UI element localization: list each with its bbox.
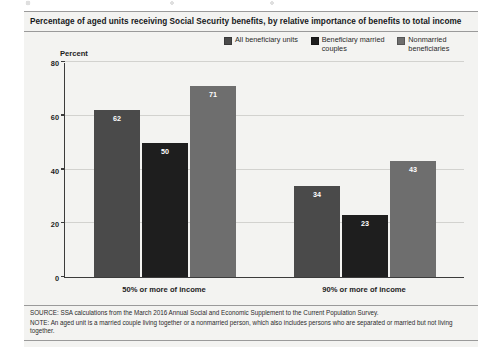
x-axis-group-label: 90% or more of income [322, 285, 406, 294]
legend-item-nonmarried-beneficiaries: Nonmarried beneficiaries [397, 36, 474, 53]
bar-value-label: 23 [342, 219, 388, 228]
y-tick-mark [61, 61, 65, 62]
x-axis-group-label: 50% or more of income [122, 285, 206, 294]
bar-value-label: 50 [142, 147, 188, 156]
plot-wrapper: 020406080 625071342343 50% or more of in… [42, 63, 470, 295]
gridline [65, 61, 464, 62]
general-note: NOTE: An aged unit is a married couple l… [30, 319, 472, 335]
bar: 34 [294, 186, 340, 277]
chart-notes: SOURCE: SSA calculations from the March … [24, 305, 478, 341]
legend-label: All beneficiary units [235, 36, 298, 45]
chart-title-bar: Percentage of aged units receiving Socia… [24, 11, 478, 32]
bar: 23 [342, 215, 388, 277]
legend-swatch-icon [397, 37, 405, 45]
legend-label: Nonmarried beneficiaries [408, 36, 474, 53]
bar-value-label: 43 [390, 165, 436, 174]
bar: 50 [142, 143, 188, 277]
chart-legend: All beneficiary units Beneficiary marrie… [224, 36, 474, 60]
y-tick-label: 60 [39, 112, 59, 121]
bar: 62 [94, 110, 140, 277]
legend-swatch-icon [311, 37, 319, 45]
legend-label: Beneficiary married couples [322, 36, 388, 53]
y-axis-title: Percent [60, 49, 88, 58]
bar: 43 [390, 161, 436, 277]
legend-item-beneficiary-married-couples: Beneficiary married couples [311, 36, 388, 53]
legend-swatch-icon [224, 37, 232, 45]
bars-layer: 625071342343 [65, 63, 464, 277]
source-note: SOURCE: SSA calculations from the March … [30, 309, 472, 317]
chart-figure: Percentage of aged units receiving Socia… [24, 11, 478, 347]
bar-value-label: 62 [94, 114, 140, 123]
plot-area: 625071342343 [64, 63, 464, 278]
y-tick-label: 80 [39, 59, 59, 68]
bar-value-label: 71 [190, 90, 236, 99]
y-tick-label: 40 [39, 166, 59, 175]
bar-value-label: 34 [294, 190, 340, 199]
y-axis-tick-labels: 020406080 [42, 63, 62, 278]
chart-title: Percentage of aged units receiving Socia… [24, 17, 461, 26]
bar: 71 [190, 86, 236, 277]
scanned-page-top-edge [0, 0, 484, 11]
legend-item-all-beneficiary-units: All beneficiary units [224, 36, 301, 45]
y-tick-label: 20 [39, 220, 59, 229]
y-tick-label: 0 [39, 274, 59, 283]
cropped-text-artifact [22, 0, 352, 7]
